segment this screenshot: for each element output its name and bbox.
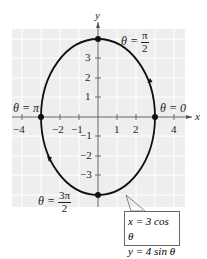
y-tick-label: 1 (85, 91, 91, 102)
point-theta-half-pi (95, 36, 101, 42)
y-tick-label: −1 (80, 130, 92, 141)
equation-x: x = 3 cos θ (128, 214, 176, 244)
y-axis-arrow-icon (96, 22, 100, 28)
x-tick-label: −4 (13, 124, 25, 135)
label-theta-3half-pi: θ = 3π2 (38, 190, 71, 214)
x-tick-label: 1 (114, 124, 120, 135)
y-tick-label: −3 (80, 169, 92, 180)
x-tick-label: 2 (133, 124, 139, 135)
y-tick-label: 2 (85, 72, 91, 83)
equation-box: x = 3 cos θ y = 4 sin θ (124, 211, 180, 246)
x-axis-arrow-icon (186, 115, 192, 119)
y-tick-label: 3 (85, 52, 91, 63)
plot-panel (12, 29, 185, 207)
x-tick-label: −2 (52, 124, 64, 135)
point-theta-3half-pi (95, 192, 101, 198)
y-axis-label: y (95, 10, 100, 21)
label-theta-half-pi: θ = π2 (121, 30, 149, 54)
x-tick-label: 4 (171, 124, 177, 135)
y-tick-label: −2 (80, 150, 92, 161)
label-theta-0: θ = 0 (160, 102, 186, 114)
equation-y: y = 4 sin θ (128, 244, 176, 259)
point-theta-0 (152, 114, 158, 120)
x-axis-label: x (195, 111, 200, 122)
label-theta-pi: θ = π (13, 102, 39, 114)
